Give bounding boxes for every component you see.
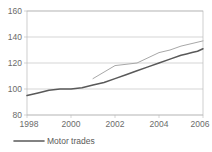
x-axis-label-2006: 2006 [191,119,210,129]
y-axis-label-120: 120 [8,58,22,68]
y-axis-label-140: 140 [8,32,22,42]
x-axis-label-1998: 1998 [20,119,39,129]
y-axis-labels: 160 140 120 100 80 [8,6,22,120]
x-axis-label-2004: 2004 [150,119,169,129]
y-axis-ticks [24,11,27,115]
x-axis-labels: 1998 2000 2002 2004 2006 [20,119,210,129]
legend: Motor trades [14,136,95,146]
series-line-motor-trades [27,49,203,96]
x-axis-label-2000: 2000 [62,119,81,129]
x-axis-ticks [27,115,203,118]
y-axis-label-160: 160 [8,6,22,16]
data-series-group [27,41,203,96]
gridlines [27,11,203,115]
x-axis-label-2002: 2002 [106,119,125,129]
chart-container: 160 140 120 100 80 1998 2000 2002 2004 2… [0,0,212,152]
y-axis-label-100: 100 [8,84,22,94]
chart-plot: 160 140 120 100 80 1998 2000 2002 2004 2… [0,0,212,152]
series-line-secondary [93,41,203,79]
legend-label-motor-trades: Motor trades [47,136,95,146]
